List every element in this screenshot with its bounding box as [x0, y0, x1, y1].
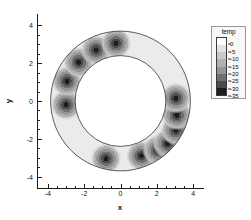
- y-tick: [38, 63, 42, 64]
- legend-swatch-column: [216, 37, 227, 96]
- y-axis-title: y: [4, 99, 13, 103]
- x-tick-minor: [93, 186, 94, 188]
- legend-tick: [228, 96, 231, 97]
- x-tick-minor: [175, 186, 176, 188]
- legend-swatch: [217, 88, 226, 95]
- legend-label: -15: [230, 64, 239, 70]
- x-tick-label: 4: [191, 190, 195, 197]
- legend-tick: [228, 66, 231, 67]
- contour-plot-figure: -4-2024420-2-4 x y temp 0-5-10-15-20-25-…: [0, 0, 251, 220]
- legend-tick: [228, 88, 231, 89]
- contour-field: [37, 14, 204, 188]
- legend-title: temp: [212, 28, 245, 35]
- y-tick-minor: [38, 54, 40, 55]
- y-tick-minor: [38, 73, 40, 74]
- y-tick-label: 4: [29, 22, 33, 29]
- x-tick-minor: [139, 186, 140, 188]
- legend-tick: [228, 44, 231, 45]
- colorbar-legend[interactable]: temp 0-5-10-15-20-25-30-35: [211, 26, 246, 99]
- x-tick: [48, 184, 49, 188]
- x-tick: [157, 184, 158, 188]
- legend-swatch: [217, 74, 226, 81]
- legend-label-column: 0-5-10-15-20-25-30-35: [228, 37, 247, 96]
- y-tick: [38, 139, 42, 140]
- x-tick-label: -4: [45, 190, 51, 197]
- y-tick: [38, 25, 42, 26]
- x-tick-minor: [184, 186, 185, 188]
- x-tick: [121, 184, 122, 188]
- x-tick: [193, 184, 194, 188]
- x-tick-minor: [66, 186, 67, 188]
- y-tick-minor: [38, 82, 40, 83]
- contour-svg: [37, 14, 204, 188]
- y-tick-minor: [38, 167, 40, 168]
- legend-swatch: [217, 67, 226, 74]
- y-tick-minor: [38, 129, 40, 130]
- plot-area: [37, 14, 204, 188]
- y-tick-minor: [38, 110, 40, 111]
- legend-label: -20: [230, 71, 239, 77]
- y-tick: [38, 101, 42, 102]
- legend-swatch: [217, 52, 226, 59]
- y-tick-minor: [38, 158, 40, 159]
- y-tick-label: -4: [27, 173, 33, 180]
- legend-swatch: [217, 45, 226, 52]
- legend-swatch: [217, 59, 226, 66]
- x-tick-label: 0: [119, 190, 123, 197]
- y-tick-minor: [38, 148, 40, 149]
- legend-label: -10: [230, 56, 239, 62]
- y-tick: [38, 177, 42, 178]
- legend-label: -35: [230, 93, 239, 99]
- y-tick-label: 0: [29, 98, 33, 105]
- x-tick-minor: [111, 186, 112, 188]
- y-tick-label: -2: [27, 135, 33, 142]
- y-tick-minor: [38, 120, 40, 121]
- x-tick-minor: [75, 186, 76, 188]
- legend-swatch: [217, 38, 226, 45]
- y-tick-minor: [38, 35, 40, 36]
- x-tick-label: -2: [81, 190, 87, 197]
- x-tick-minor: [130, 186, 131, 188]
- legend-label: -30: [230, 86, 239, 92]
- x-tick-minor: [148, 186, 149, 188]
- y-tick-minor: [38, 92, 40, 93]
- legend-tick: [228, 81, 231, 82]
- y-tick-label: 2: [29, 60, 33, 67]
- x-tick-minor: [102, 186, 103, 188]
- x-axis-line: [37, 188, 204, 189]
- y-tick-minor: [38, 44, 40, 45]
- legend-tick: [228, 59, 231, 60]
- legend-label: -25: [230, 78, 239, 84]
- x-tick-minor: [57, 186, 58, 188]
- legend-tick: [228, 51, 231, 52]
- x-tick: [84, 184, 85, 188]
- legend-swatch: [217, 81, 226, 88]
- x-axis-title: x: [118, 203, 122, 212]
- x-tick-label: 2: [155, 190, 159, 197]
- x-tick-minor: [166, 186, 167, 188]
- legend-tick: [228, 73, 231, 74]
